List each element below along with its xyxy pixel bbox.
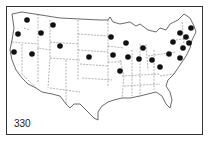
location-dot bbox=[177, 30, 183, 36]
location-dots bbox=[11, 17, 194, 74]
location-dot bbox=[50, 22, 56, 28]
location-dot bbox=[149, 57, 155, 63]
location-dot bbox=[86, 54, 92, 60]
location-dot bbox=[188, 25, 194, 31]
location-dot bbox=[136, 56, 142, 62]
location-dot bbox=[24, 17, 30, 23]
location-dot bbox=[38, 30, 44, 36]
location-dot bbox=[157, 64, 163, 70]
location-dot bbox=[186, 40, 192, 46]
location-dot bbox=[11, 49, 17, 55]
location-dot bbox=[110, 52, 116, 58]
location-dot bbox=[108, 34, 114, 40]
location-dot bbox=[170, 39, 176, 45]
location-dot bbox=[140, 45, 146, 51]
location-dot bbox=[125, 54, 131, 60]
location-dot bbox=[183, 34, 189, 40]
state-borders bbox=[12, 14, 190, 104]
location-dot bbox=[29, 51, 35, 57]
location-dot bbox=[166, 51, 172, 57]
location-dot bbox=[123, 40, 129, 46]
location-dot bbox=[117, 68, 123, 74]
location-dot bbox=[180, 45, 186, 51]
us-map bbox=[0, 0, 208, 143]
map-label: 330 bbox=[14, 118, 31, 129]
location-dot bbox=[177, 55, 183, 61]
location-dot bbox=[57, 43, 63, 49]
location-dot bbox=[15, 31, 21, 37]
